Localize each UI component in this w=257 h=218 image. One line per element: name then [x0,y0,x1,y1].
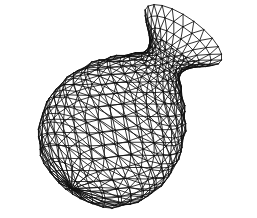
mesh-edges [38,5,221,209]
mesh-lines [38,5,221,209]
wireframe-vase-mesh [0,0,257,218]
figure-canvas [0,0,257,218]
